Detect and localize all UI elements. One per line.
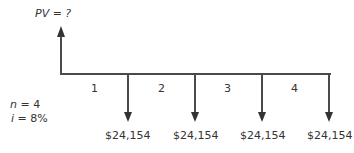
period-label-3: 3: [224, 82, 231, 95]
cashflow-amount-3: $24,154: [240, 129, 286, 142]
cashflow-amount-4: $24,154: [307, 129, 353, 142]
cashflow-line-4: [328, 74, 330, 114]
period-label-1: 1: [91, 82, 98, 95]
cashflow-line-2: [194, 74, 196, 114]
pv-vertical-line: [60, 36, 62, 75]
cashflow-line-3: [261, 74, 263, 114]
param-i-text: i = 8%: [11, 112, 48, 125]
pv-label: PV = ?: [35, 7, 71, 20]
period-label-4: 4: [291, 82, 298, 95]
param-n: n = 4: [10, 98, 40, 111]
period-label-2: 2: [158, 82, 165, 95]
cashflow-amount-2: $24,154: [173, 129, 219, 142]
cashflow-arrow-down-icon-3: [258, 112, 266, 122]
cashflow-arrow-down-icon-2: [191, 112, 199, 122]
cashflow-line-1: [127, 74, 129, 114]
cashflow-arrow-down-icon-1: [124, 112, 132, 122]
param-n-text: n = 4: [10, 98, 40, 111]
param-i: i = 8%: [11, 112, 48, 125]
cashflow-arrow-down-icon-4: [325, 112, 333, 122]
cashflow-amount-1: $24,154: [105, 129, 151, 142]
